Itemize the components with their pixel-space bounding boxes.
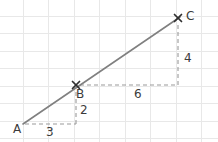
point-label-b: B bbox=[76, 88, 84, 100]
segment-label-run-b-c: 6 bbox=[134, 88, 142, 100]
point-label-a: A bbox=[13, 123, 21, 135]
geometry-figure: A B C 3 2 6 4 bbox=[0, 0, 218, 142]
construction-lines bbox=[25, 24, 178, 124]
point-label-c: C bbox=[186, 10, 194, 22]
segment-label-rise-b-c: 4 bbox=[184, 52, 192, 64]
segment-label-run-a-b: 3 bbox=[46, 126, 54, 138]
segment-label-rise-a-b: 2 bbox=[80, 104, 88, 116]
